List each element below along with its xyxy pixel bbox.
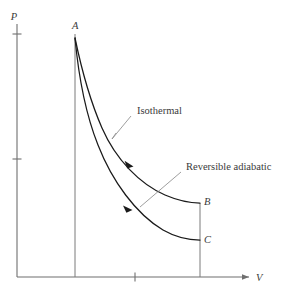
isothermal-direction-arrow [125, 161, 134, 169]
x-axis-arrowhead [242, 274, 249, 280]
point-label-a: A [71, 20, 79, 31]
adiabatic-curve [75, 38, 200, 240]
isothermal-annotation: Isothermal [137, 105, 182, 116]
point-label-c: C [204, 234, 212, 245]
y-axis-label: P [10, 11, 18, 22]
adiabatic-direction-arrow [123, 206, 133, 213]
adiabatic-leader-line [140, 172, 181, 207]
point-label-b: B [204, 196, 211, 207]
pressure-volume-chart: P V A B C Isothermal Reversible adiabati… [0, 0, 287, 301]
isothermal-curve [75, 38, 200, 203]
isothermal-leader-tip [112, 133, 116, 139]
isothermal-leader-line [112, 116, 131, 139]
pv-diagram-figure: P V A B C Isothermal Reversible adiabati… [0, 0, 287, 301]
adiabatic-annotation: Reversible adiabatic [186, 161, 272, 172]
x-axis-label: V [256, 272, 264, 283]
